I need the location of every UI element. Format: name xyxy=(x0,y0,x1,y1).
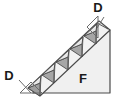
geometry-diagram: D D F xyxy=(0,0,116,105)
label-f-body: F xyxy=(79,71,87,86)
label-d-bottom-left: D xyxy=(4,68,13,83)
figure-container: D D F xyxy=(0,0,116,105)
label-d-top-right: D xyxy=(93,0,102,15)
